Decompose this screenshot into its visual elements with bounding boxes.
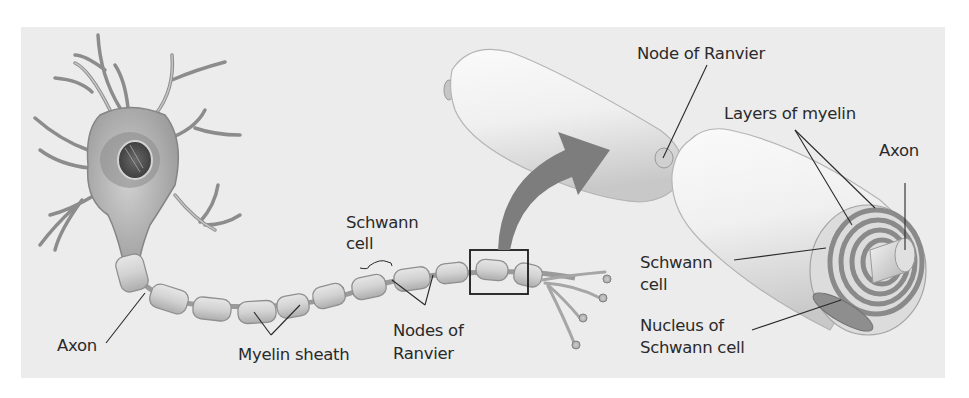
neuron-illustration [0,0,969,398]
label-schwann-cell-top-2: cell [346,234,373,254]
label-node-of-ranvier: Node of Ranvier [637,44,765,64]
myelin-sheath-segments [114,252,544,324]
axon-terminals [542,272,605,345]
label-nodes-of-ranvier-2: Ranvier [393,344,454,364]
label-myelin-sheath: Myelin sheath [238,345,349,365]
label-schwann-cell-right-1: Schwann [640,253,712,273]
label-schwann-cell-top-1: Schwann [346,213,418,233]
node-of-ranvier-bulge [655,148,673,168]
cell-body [88,108,179,271]
label-nodes-of-ranvier-1: Nodes of [393,321,463,341]
label-axon-right: Axon [879,141,919,161]
label-nucleus-of-schwann-cell-1: Nucleus of [640,316,724,336]
terminal-buttons [572,275,611,349]
label-nucleus-of-schwann-cell-2: Schwann cell [640,338,745,358]
nucleus [100,132,160,188]
label-schwann-cell-right-2: cell [640,275,667,295]
label-layers-of-myelin: Layers of myelin [724,104,856,124]
label-axon-left: Axon [57,336,97,356]
